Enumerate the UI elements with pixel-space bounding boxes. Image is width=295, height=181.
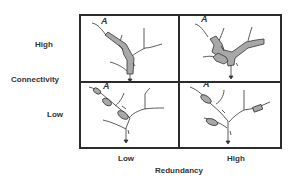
panel-high-connectivity-low-redundancy: A [92, 16, 162, 82]
channel-pool [199, 93, 212, 105]
marker-a: A [102, 81, 110, 91]
diagram-figure: A A A [0, 0, 295, 181]
channel-pool [205, 117, 218, 127]
channel-pool [101, 97, 113, 108]
marker-a: A [200, 14, 208, 24]
channel-pool [92, 87, 101, 96]
channel-pool [253, 104, 263, 112]
panel-high-connectivity-high-redundancy: A [195, 14, 264, 79]
channel-segment [105, 32, 134, 74]
panel-low-connectivity-low-redundancy: A [89, 81, 164, 143]
panel-low-connectivity-high-redundancy: A [190, 79, 270, 144]
marker-a: A [100, 16, 108, 26]
marker-a: A [202, 79, 210, 89]
channel-pool [116, 109, 130, 121]
